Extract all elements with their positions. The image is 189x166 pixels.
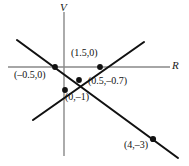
point-label-05-neg07: (0.5,–0.7) — [88, 76, 127, 86]
point-label-neg05-0: (–0.5,0) — [14, 70, 46, 80]
point-marker-4-neg3 — [150, 136, 156, 142]
point-label-15-0: (1.5,0) — [71, 48, 98, 58]
point-label-0-neg1: (0,–1) — [65, 92, 89, 102]
coordinate-graph-figure: V R (–0.5,0) (1.5,0) (0.5,–0.7) (0,–1) (… — [0, 0, 189, 166]
point-marker-neg05-0 — [52, 64, 58, 70]
point-marker-15-0 — [97, 64, 103, 70]
point-marker-05-neg07 — [76, 77, 82, 83]
v-axis-label: V — [60, 2, 67, 13]
r-axis-label: R — [172, 60, 179, 71]
point-label-4-neg3: (4,–3) — [124, 140, 148, 150]
